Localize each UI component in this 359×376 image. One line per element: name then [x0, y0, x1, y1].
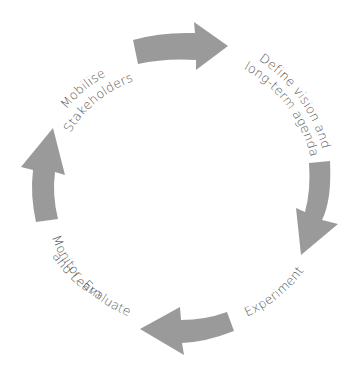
svg-text:Monitor, Evaluate: Monitor, Evaluate	[49, 233, 134, 319]
label-monitor-evaluate-learn: Monitor, Evaluate and Learn	[49, 233, 134, 319]
arrow-experiment-to-monitor	[140, 307, 234, 355]
label-monitor-line-2: and Learn	[49, 249, 104, 301]
svg-text:and Learn: and Learn	[49, 249, 104, 301]
arrow-mobilise-to-define	[133, 22, 228, 70]
label-experiment: Experiment	[242, 263, 307, 319]
label-experiment-line-1: Experiment	[242, 263, 307, 319]
label-monitor-line-1: Monitor, Evaluate	[49, 233, 134, 319]
arrow-monitor-to-mobilise	[21, 128, 65, 222]
svg-text:Experiment: Experiment	[242, 263, 307, 319]
cycle-diagram: Mobilise Stakeholders Define vision and …	[0, 0, 359, 376]
label-mobilise-stakeholders: Mobilise Stakeholders	[57, 65, 135, 135]
label-define-vision: Define vision and long-term agenda	[242, 50, 334, 158]
arrow-define-to-experiment	[296, 161, 338, 255]
